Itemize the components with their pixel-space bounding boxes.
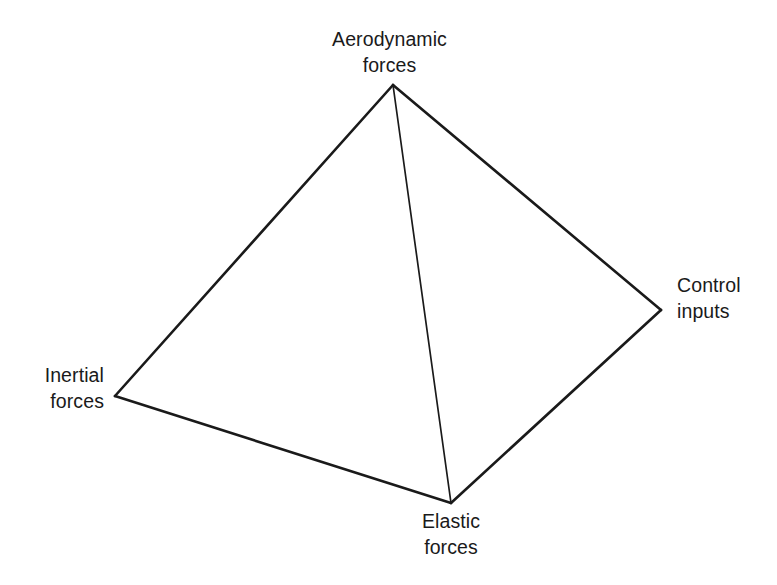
vertex-label-inertial-forces: Inertial forces xyxy=(0,362,104,414)
vertex-label-aerodynamic-line2: forces xyxy=(2,52,777,78)
vertex-label-control-inputs: Control inputs xyxy=(677,272,741,324)
edge-apex-to-elastic xyxy=(393,85,451,503)
vertex-label-elastic-forces: Elastic forces xyxy=(371,508,531,560)
aeroelastic-tetrahedron-diagram: Aerodynamic forces Control inputs Inerti… xyxy=(0,0,777,585)
vertex-label-aerodynamic-line1: Aerodynamic xyxy=(2,26,777,52)
edge-inertial-to-elastic xyxy=(115,396,451,503)
vertex-label-elastic-line2: forces xyxy=(371,534,531,560)
vertex-label-elastic-line1: Elastic xyxy=(371,508,531,534)
tetrahedron-drawing xyxy=(0,0,777,585)
vertex-label-inertial-line1: Inertial xyxy=(0,362,104,388)
edge-apex-to-control xyxy=(393,85,661,310)
edge-apex-to-inertial xyxy=(115,85,393,396)
vertex-label-control-line1: Control xyxy=(677,272,741,298)
edge-control-to-elastic xyxy=(451,310,661,503)
vertex-label-aerodynamic-forces: Aerodynamic forces xyxy=(0,26,777,78)
vertex-label-inertial-line2: forces xyxy=(0,388,104,414)
vertex-label-control-line2: inputs xyxy=(677,298,741,324)
